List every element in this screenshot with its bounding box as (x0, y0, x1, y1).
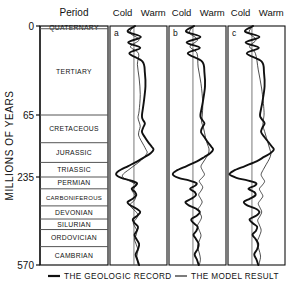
y-axis-tick-label: 235 (17, 172, 34, 183)
period-label: ORDOVICIAN (51, 234, 97, 241)
panel-b-curve-thin (189, 26, 209, 265)
panel-a-warm-label: Warm (141, 7, 166, 18)
period-label: TERTIARY (56, 68, 92, 75)
panel-b-cold-label: Cold (172, 7, 192, 18)
period-label: QUATERNARY (49, 24, 99, 32)
panel-a-curve-thick (116, 26, 153, 265)
period-column-header: Period (60, 7, 89, 18)
period-label: TRIASSIC (57, 166, 91, 173)
panel-c-letter: c (232, 28, 237, 38)
period-label: CAMBRIAN (55, 252, 93, 259)
panel-b-warm-label: Warm (200, 7, 225, 18)
period-label: DEVONIAN (55, 209, 93, 216)
panel-c-cold-label: Cold (231, 7, 251, 18)
y-axis-tick-label: 570 (17, 260, 34, 271)
figure-canvas: MILLIONS OF YEARSPeriod065235570QUATERNA… (0, 0, 292, 287)
panel-b-letter: b (173, 28, 178, 38)
period-label: CRETACEOUS (49, 125, 99, 132)
panel-c-warm-label: Warm (259, 7, 284, 18)
y-axis-tick-label: 65 (23, 110, 35, 121)
y-axis-tick-label: 0 (28, 21, 34, 32)
legend-label-thin: THE MODEL RESULT (191, 272, 279, 281)
geologic-climate-figure: MILLIONS OF YEARSPeriod065235570QUATERNA… (0, 0, 292, 287)
legend-label-thick: THE GEOLOGIC RECORD (64, 272, 172, 281)
period-label: JURASSIC (56, 149, 92, 156)
period-label: CARBONIFEROUS (46, 195, 102, 201)
period-label: PERMIAN (57, 179, 90, 186)
panel-a-cold-label: Cold (113, 7, 133, 18)
y-axis-title: MILLIONS OF YEARS (4, 90, 15, 200)
panel-a-letter: a (114, 28, 119, 38)
period-label: SILURIAN (57, 221, 91, 228)
